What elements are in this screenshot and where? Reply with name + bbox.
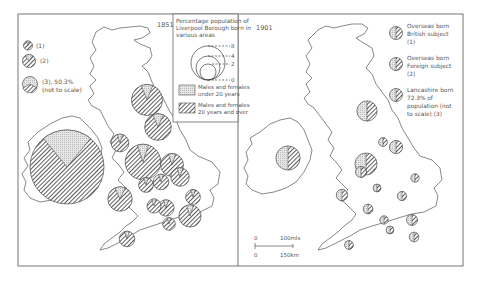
pie-1901-3 bbox=[379, 138, 388, 147]
legend-1901-label-2-line-1: Overseas born bbox=[407, 55, 449, 61]
scale-bar: 0 100mls 0 150km bbox=[254, 235, 300, 258]
pie-adult-segment bbox=[412, 215, 418, 226]
legend-1851: (1) (2) (3), 50.3% (not to scale) bbox=[23, 41, 82, 93]
legend-1901-pie-1 bbox=[390, 27, 403, 40]
pie-1851-5 bbox=[145, 114, 172, 141]
pie-1851-0 bbox=[30, 130, 104, 204]
legend-pie-2 bbox=[23, 54, 36, 67]
panel-1901: 1901 Overseas born British subject (1) O… bbox=[244, 23, 454, 258]
pie-adult-segment bbox=[396, 58, 403, 71]
pie-young-segment bbox=[345, 241, 349, 250]
legend-1901-label-3-line-3: population (not bbox=[407, 103, 452, 110]
pie-young-segment bbox=[390, 27, 396, 40]
pie-1901-8 bbox=[380, 216, 388, 224]
legend-1901-item-2: Overseas born Foreign subject (2) bbox=[390, 55, 453, 77]
pie-1901-15 bbox=[411, 174, 419, 182]
half-pie-foreign-icon bbox=[390, 58, 403, 71]
pie-1851-12 bbox=[147, 199, 161, 213]
scale-value-2: 2 bbox=[231, 61, 235, 67]
pie-young-segment bbox=[386, 226, 390, 234]
half-pie-british-icon bbox=[390, 27, 403, 40]
scale-top-zero: 0 bbox=[254, 235, 258, 241]
pie-adult-segment bbox=[396, 27, 403, 40]
pie-1901-6 bbox=[336, 189, 347, 200]
legend-label-1: (1) bbox=[36, 42, 45, 49]
migration-map-figure: 1851 (1) (2) (3), 50.3% (not to scale) P… bbox=[0, 0, 478, 281]
pie-1901-0 bbox=[276, 146, 300, 170]
legend-item-1: (1) bbox=[24, 41, 45, 50]
pie-1851-14 bbox=[163, 218, 176, 231]
legend-1901-label-2-line-3: (2) bbox=[407, 71, 415, 77]
legend-1901-item-3: Lancashire born 72.3% of population (not… bbox=[390, 87, 454, 117]
pie-symbol-large-icon bbox=[23, 77, 38, 93]
legend-pie-3 bbox=[23, 77, 38, 93]
scale-bottom-label: 150km bbox=[280, 252, 299, 258]
pie-1901-11 bbox=[386, 226, 394, 234]
pie-1851-9 bbox=[139, 178, 154, 193]
year-label-1851: 1851 bbox=[157, 21, 174, 29]
year-label-1901: 1901 bbox=[256, 24, 273, 32]
legend-note-3: (not to scale) bbox=[42, 86, 82, 93]
pie-1851-13 bbox=[179, 205, 201, 227]
scale-bottom-zero: 0 bbox=[254, 252, 258, 258]
pie-young-segment bbox=[390, 58, 396, 71]
pie-young-segment bbox=[409, 232, 414, 242]
stipple-label-line-1: Males and females bbox=[198, 84, 250, 90]
stipple-swatch bbox=[179, 85, 195, 95]
pie-adult-segment bbox=[349, 241, 353, 250]
pie-1901-10 bbox=[397, 191, 406, 200]
legend-1901: Overseas born British subject (1) Overse… bbox=[390, 23, 454, 117]
pie-1851-8 bbox=[171, 168, 190, 187]
pie-1901-5 bbox=[389, 140, 402, 153]
pie-symbol-medium-icon bbox=[23, 54, 36, 67]
hatch-label-line-1: Males and females bbox=[198, 102, 250, 108]
legend-1901-label-2-line-2: Foreign subject bbox=[407, 63, 452, 70]
legend-1901-label-3-line-1: Lancashire born bbox=[407, 87, 454, 93]
pie-adult-segment bbox=[414, 232, 419, 242]
legend-label-3: (3), 50.3% bbox=[42, 78, 74, 85]
pie-1901-9 bbox=[373, 184, 381, 192]
pie-1851-2 bbox=[108, 187, 132, 211]
legend-item-3: (3), 50.3% (not to scale) bbox=[23, 77, 82, 94]
legend-item-2: (2) bbox=[23, 54, 49, 67]
legend-1901-item-1: Overseas born British subject (1) bbox=[390, 23, 450, 45]
pie-1901-13 bbox=[407, 215, 418, 226]
pie-1901-7 bbox=[363, 204, 373, 214]
scale-value-0: 0 bbox=[231, 77, 235, 83]
pie-1901-12 bbox=[409, 232, 419, 242]
pie-1851-10 bbox=[153, 174, 169, 190]
key-title-line-2: Liverpool Borough born in bbox=[176, 25, 251, 32]
scale-value-8: 8 bbox=[231, 43, 235, 49]
panel-1851: 1851 (1) (2) (3), 50.3% (not to scale) P… bbox=[22, 14, 251, 250]
pie-adult-segment bbox=[390, 226, 394, 234]
hatch-label-line-2: 20 years and over bbox=[198, 109, 249, 116]
scale-value-4: 4 bbox=[231, 53, 235, 59]
pie-1851-4 bbox=[111, 134, 129, 152]
legend-1901-label-3-line-4: to scale) (3) bbox=[407, 111, 442, 117]
pie-1901-2 bbox=[357, 101, 377, 121]
stipple-label-line-2: under 20 years bbox=[198, 91, 240, 98]
legend-1901-label-3-line-2: 72.3% of bbox=[407, 95, 434, 101]
pie-1851-15 bbox=[119, 231, 135, 247]
legend-1901-label-1-line-1: Overseas born bbox=[407, 23, 449, 29]
legend-1901-label-1-line-3: (1) bbox=[407, 39, 415, 45]
key-box: Percentage population of Liverpool Borou… bbox=[173, 14, 251, 122]
pie-1901-14 bbox=[345, 241, 354, 250]
scale-top-label: 100mls bbox=[280, 235, 300, 241]
pie-symbol-small-icon bbox=[24, 41, 33, 50]
pie-1851-7 bbox=[125, 144, 161, 180]
pie-young-segment bbox=[390, 89, 396, 102]
legend-1901-label-1-line-2: British subject bbox=[407, 31, 449, 38]
legend-pie-1 bbox=[24, 41, 33, 50]
legend-1901-pie-3 bbox=[390, 89, 403, 102]
pie-adult-segment bbox=[396, 89, 403, 102]
legend-label-2: (2) bbox=[40, 57, 49, 64]
key-title-line-3: various areas bbox=[176, 32, 215, 38]
pie-1901-4 bbox=[356, 167, 367, 178]
pie-1851-16 bbox=[186, 190, 201, 205]
hatch-swatch bbox=[179, 103, 195, 113]
legend-1901-pie-2 bbox=[390, 58, 403, 71]
pie-young-segment bbox=[336, 189, 342, 200]
half-pie-lancashire-icon bbox=[390, 89, 403, 102]
key-title-line-1: Percentage population of bbox=[176, 18, 250, 25]
